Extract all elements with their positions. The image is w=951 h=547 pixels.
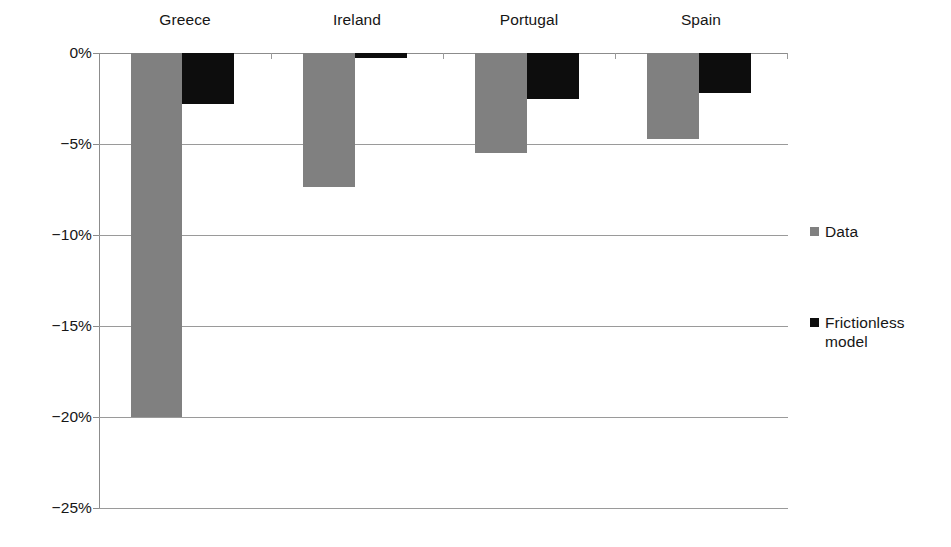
category-label-portugal: Portugal bbox=[443, 12, 615, 28]
bar-data-ireland bbox=[303, 53, 355, 187]
bar-data-spain bbox=[647, 53, 699, 139]
category-tick-3 bbox=[615, 53, 616, 59]
y-tick-mark-20 bbox=[93, 417, 99, 418]
y-tick-mark-0 bbox=[93, 53, 99, 54]
gridline-5 bbox=[99, 144, 788, 145]
y-tick-label-0: 0% bbox=[6, 45, 92, 61]
category-tick-4 bbox=[787, 53, 788, 59]
y-tick-label-2: −10% bbox=[6, 227, 92, 243]
bar-model-portugal bbox=[527, 53, 579, 99]
plot-area bbox=[99, 53, 788, 508]
category-label-spain: Spain bbox=[615, 12, 787, 28]
legend-swatch-icon-model bbox=[810, 318, 819, 327]
category-label-greece: Greece bbox=[99, 12, 271, 28]
gridline-15 bbox=[99, 326, 788, 327]
bar-model-ireland bbox=[355, 53, 407, 58]
y-tick-mark-5 bbox=[93, 144, 99, 145]
gridline-25 bbox=[99, 508, 788, 509]
legend-swatch-icon-data bbox=[810, 227, 819, 236]
y-tick-mark-15 bbox=[93, 326, 99, 327]
y-axis-tick-labels: 0% −5% −10% −15% −20% −25% bbox=[0, 53, 92, 508]
legend-item-data: Data bbox=[810, 222, 858, 241]
y-tick-label-4: −20% bbox=[6, 409, 92, 425]
bar-model-greece bbox=[182, 53, 234, 104]
bar-chart: 0% −5% −10% −15% −20% −25% bbox=[0, 0, 951, 547]
y-tick-label-3: −15% bbox=[6, 318, 92, 334]
y-tick-mark-10 bbox=[93, 235, 99, 236]
legend-label-frictionless-model: Frictionless model bbox=[825, 313, 905, 351]
y-tick-label-5: −25% bbox=[6, 500, 92, 516]
y-tick-mark-25 bbox=[93, 508, 99, 509]
category-label-ireland: Ireland bbox=[271, 12, 443, 28]
gridline-20 bbox=[99, 417, 788, 418]
y-tick-label-1: −5% bbox=[6, 136, 92, 152]
legend-item-frictionless-model: Frictionless model bbox=[810, 313, 905, 351]
bar-model-spain bbox=[699, 53, 751, 93]
category-tick-2 bbox=[443, 53, 444, 59]
legend-label-data: Data bbox=[825, 222, 858, 241]
gridline-10 bbox=[99, 235, 788, 236]
bar-data-portugal bbox=[475, 53, 527, 153]
category-tick-1 bbox=[271, 53, 272, 59]
bar-data-greece bbox=[131, 53, 182, 417]
